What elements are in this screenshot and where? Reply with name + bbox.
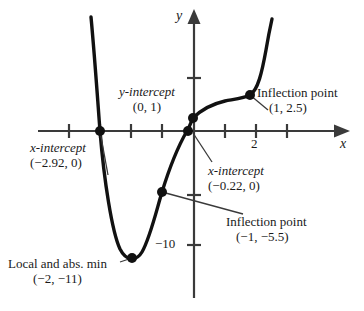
graph-figure: y x 2 −10 y-intercept (0, 1) Inflection …: [0, 0, 364, 311]
annotation-local-abs-min-line2: (−2, −11): [8, 271, 107, 286]
annotation-inflection-point-lower: Inflection point (−1, −5.5): [226, 214, 307, 244]
y-axis-label: y: [176, 8, 182, 24]
point-y-intercept: [188, 113, 198, 123]
point-inflection-upper: [245, 90, 255, 100]
annotation-x-intercept-right-line2: (−0.22, 0): [208, 178, 264, 193]
annotation-y-intercept-line2: (0, 1): [119, 99, 175, 114]
y-tick-label-minus-10: −10: [155, 236, 175, 252]
annotation-x-intercept-left-line2: (−2.92, 0): [30, 155, 86, 170]
annotation-x-intercept-left-line1: x-intercept: [30, 140, 86, 155]
y-axis: [188, 9, 201, 298]
annotation-local-abs-min-line1: Local and abs. min: [8, 256, 107, 271]
point-x-intercept-left: [95, 126, 105, 136]
annotation-local-abs-min: Local and abs. min (−2, −11): [8, 256, 107, 286]
annotation-inflection-lower-line2: (−1, −5.5): [226, 229, 307, 244]
annotation-inflection-point-upper: Inflection point (1, 2.5): [257, 85, 338, 115]
annotation-inflection-lower-line1: Inflection point: [226, 214, 307, 229]
point-inflection-lower: [157, 187, 167, 197]
annotation-x-intercept-right-line1: x-intercept: [208, 163, 264, 178]
annotation-y-intercept-line1: y-intercept: [119, 84, 175, 99]
annotation-y-intercept: y-intercept (0, 1): [119, 84, 175, 114]
annotation-inflection-upper-line2: (1, 2.5): [257, 100, 338, 115]
annotation-x-intercept-right: x-intercept (−0.22, 0): [208, 163, 264, 193]
annotation-inflection-upper-line1: Inflection point: [257, 85, 338, 100]
x-axis-label: x: [340, 136, 346, 152]
point-x-intercept-right: [183, 126, 193, 136]
annotation-x-intercept-left: x-intercept (−2.92, 0): [30, 140, 86, 170]
x-tick-label-2: 2: [251, 136, 258, 152]
point-local-abs-min: [127, 253, 137, 263]
